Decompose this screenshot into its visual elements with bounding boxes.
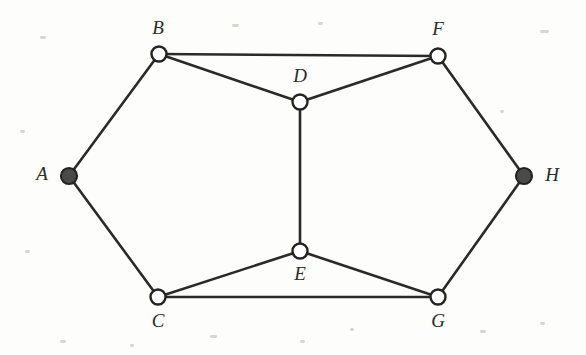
graph-diagram: ABCDEFGH: [0, 0, 586, 355]
graph-edge-b-d: [159, 54, 300, 102]
graph-node-d[interactable]: [293, 95, 308, 110]
graph-edge-a-b: [69, 54, 159, 176]
graph-edge-g-h: [438, 176, 524, 297]
figure-canvas: ABCDEFGH: [0, 0, 586, 355]
paper-speck: [540, 322, 545, 325]
vertex-label-g: G: [431, 310, 445, 331]
vertex-label-h: H: [544, 164, 560, 185]
graph-node-a[interactable]: [61, 168, 77, 184]
graph-edge-f-h: [438, 56, 524, 176]
paper-speck: [500, 110, 504, 113]
vertex-label-a: A: [34, 163, 48, 184]
graph-edge-d-f: [300, 56, 438, 102]
vertex-label-layer: ABCDEFGH: [34, 17, 560, 331]
vertex-label-e: E: [293, 263, 306, 284]
vertex-label-d: D: [292, 65, 307, 86]
paper-speck: [60, 340, 66, 343]
paper-speck: [350, 328, 354, 331]
vertex-label-b: B: [152, 17, 164, 38]
paper-speck: [480, 330, 486, 333]
paper-speck: [232, 24, 239, 27]
vertex-label-f: F: [431, 18, 444, 39]
graph-node-e[interactable]: [293, 244, 308, 259]
vertex-label-c: C: [152, 310, 165, 331]
paper-speck: [540, 30, 549, 33]
graph-node-g[interactable]: [431, 290, 446, 305]
paper-speck: [318, 22, 323, 25]
paper-speck: [210, 335, 217, 338]
graph-edge-e-g: [300, 251, 438, 297]
edge-layer: [69, 54, 524, 297]
paper-speck: [40, 36, 46, 39]
paper-speck: [130, 344, 134, 347]
graph-node-c[interactable]: [151, 290, 166, 305]
paper-speck: [25, 250, 30, 253]
paper-speck: [300, 340, 305, 343]
graph-edge-c-e: [158, 251, 300, 297]
graph-node-f[interactable]: [431, 49, 446, 64]
graph-node-h[interactable]: [516, 168, 532, 184]
graph-edge-b-f: [159, 54, 438, 56]
paper-speck: [20, 130, 25, 133]
graph-edge-a-c: [69, 176, 158, 297]
graph-node-b[interactable]: [152, 47, 167, 62]
